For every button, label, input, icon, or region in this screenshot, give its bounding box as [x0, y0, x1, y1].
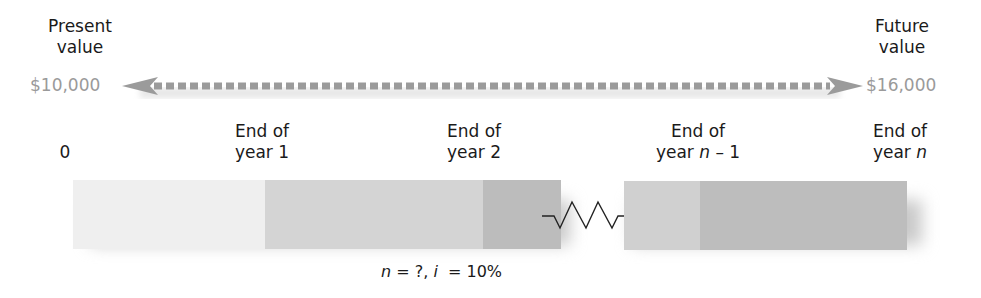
timeline-segment-year-1 [73, 180, 265, 249]
tick-1-line2: year 1 [222, 142, 302, 163]
future-label-line1: Future [862, 16, 942, 37]
present-label-line1: Present [40, 16, 120, 37]
formula-i-eq: = 10% [438, 262, 502, 281]
formula-label: n = ?, i = 10% [381, 262, 502, 281]
tick-4-line2: year n [860, 142, 940, 163]
present-label-line2: value [40, 37, 120, 58]
double-arrow-icon [120, 76, 865, 100]
tick-3-line2: year n – 1 [643, 142, 753, 163]
tick-1-line1: End of [222, 121, 302, 142]
tick-4-prefix: year [873, 142, 916, 162]
formula-n-var: n [381, 262, 391, 281]
tick-label-0: 0 [50, 142, 80, 163]
tick-4-var: n [916, 142, 927, 162]
tick-3-line1: End of [643, 121, 753, 142]
timeline-segment-year-2 [265, 180, 483, 249]
tick-label-year-2: End of year 2 [434, 121, 514, 163]
tick-2-line2: year 2 [434, 142, 514, 163]
future-value-amount: $16,000 [866, 75, 936, 95]
future-value-label: Future value [862, 16, 942, 58]
tick-label-year-n: End of year n [860, 121, 940, 163]
tick-3-var: n [699, 142, 710, 162]
tick-3-suffix: – 1 [710, 142, 740, 162]
future-label-line2: value [862, 37, 942, 58]
timeline-segment-year-n-minus-1-partial [624, 181, 700, 250]
formula-n-eq: = ?, [391, 262, 433, 281]
timeline-segment-year-n [700, 181, 907, 250]
tick-0-text: 0 [60, 142, 71, 162]
tick-3-prefix: year [656, 142, 699, 162]
present-value-amount: $10,000 [30, 75, 100, 95]
present-value-label: Present value [40, 16, 120, 58]
tick-2-line1: End of [434, 121, 514, 142]
break-zigzag-icon [540, 200, 632, 234]
tick-label-year-1: End of year 1 [222, 121, 302, 163]
tick-4-line1: End of [860, 121, 940, 142]
tick-label-year-n-minus-1: End of year n – 1 [643, 121, 753, 163]
